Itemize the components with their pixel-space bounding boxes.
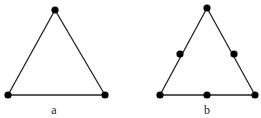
node-dot xyxy=(51,6,58,13)
node-dot xyxy=(230,50,237,57)
triangle-a xyxy=(4,6,108,98)
node-dot xyxy=(101,91,108,98)
node-dot xyxy=(176,50,183,57)
node-dot xyxy=(203,91,210,98)
node-dot xyxy=(251,91,258,98)
label-b: b xyxy=(204,103,210,118)
node-dot xyxy=(203,4,210,11)
triangle-b xyxy=(156,4,258,98)
node-dot xyxy=(156,91,163,98)
triangle-edges xyxy=(160,8,255,95)
label-a: a xyxy=(51,103,56,118)
node-dot xyxy=(4,91,11,98)
diagram-canvas xyxy=(0,0,261,118)
triangle-edges xyxy=(8,10,105,95)
